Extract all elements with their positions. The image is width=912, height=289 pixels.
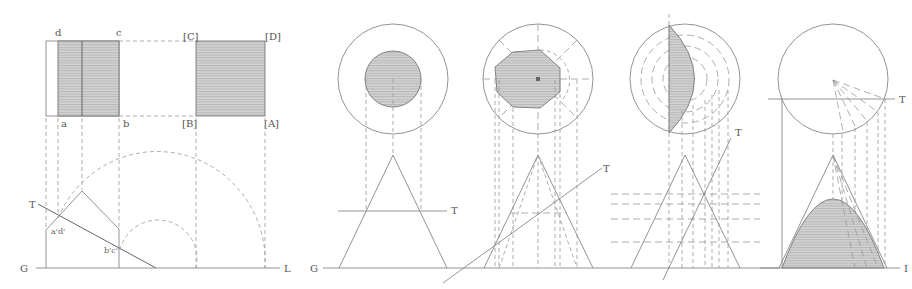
cutting-plane-T <box>38 204 156 268</box>
label-T: T <box>29 199 36 210</box>
label-G: G <box>310 263 318 274</box>
label-L: L <box>284 263 291 274</box>
label-ad: a'd' <box>51 227 65 236</box>
elliptical-section <box>495 50 560 108</box>
prism-panel: d c [C] [D] a b [B] [A] T a'd' b'c' G L <box>20 27 291 274</box>
cutting-plane-T <box>663 138 731 280</box>
label-L: I <box>904 263 908 274</box>
label-G: G <box>20 263 28 274</box>
label-a: a <box>61 118 67 129</box>
label-B: [B] <box>182 118 197 129</box>
label-b: b <box>123 118 129 129</box>
label-d: d <box>55 27 62 38</box>
label-T: T <box>603 163 610 174</box>
label-c: c <box>116 27 122 38</box>
cone-oblique-panel: T <box>443 24 610 283</box>
label-T: T <box>735 127 742 138</box>
cone-vertical-panel: T I <box>760 24 908 274</box>
label-bc: b'c' <box>104 246 118 255</box>
label-C: [C] <box>183 31 199 42</box>
descriptive-geometry-figure: d c [C] [D] a b [B] [A] T a'd' b'c' G L <box>0 0 912 289</box>
parabolic-section <box>669 25 695 133</box>
true-section-shape <box>196 41 265 116</box>
cone-steep-panel: T <box>611 14 760 280</box>
label-T: T <box>451 205 458 216</box>
cutting-plane-T <box>443 168 602 283</box>
prism-plan-section <box>58 41 119 116</box>
hyperbolic-section <box>782 199 884 268</box>
label-A: [A] <box>264 118 279 129</box>
label-D: [D] <box>265 31 281 42</box>
label-T: T <box>899 94 906 105</box>
